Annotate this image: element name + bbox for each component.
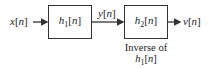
block-h1-label: h1[n] (59, 15, 81, 29)
block-h1: h1[n] (48, 5, 92, 39)
block-h2-label: h2[n] (135, 15, 157, 29)
input-signal-label: x[n] (10, 16, 28, 27)
caption-line2: h1[n] (118, 53, 174, 68)
intermediate-signal-label: y[n] (98, 8, 116, 19)
caption-line1: Inverse of (118, 42, 174, 53)
output-signal-label: v[n] (183, 16, 201, 27)
system-block-diagram: x[n] h1[n] y[n] h2[n] v[n] Inverse of h1… (0, 0, 213, 68)
block-h2-caption: Inverse of h1[n] (118, 42, 174, 68)
block-h2: h2[n] (124, 5, 168, 39)
